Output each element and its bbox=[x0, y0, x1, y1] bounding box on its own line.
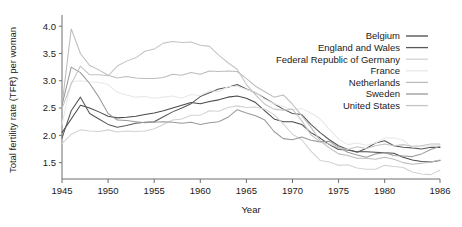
legend-item-label: Netherlands bbox=[349, 77, 400, 88]
x-tick-label: 1975 bbox=[328, 185, 349, 196]
x-tick-label: 1950 bbox=[98, 185, 119, 196]
x-axis-title: Year bbox=[241, 204, 260, 215]
legend-item-label: United States bbox=[343, 100, 400, 111]
y-tick-label: 1.5 bbox=[43, 157, 56, 168]
x-tick-label: 1965 bbox=[236, 185, 257, 196]
x-tick-label: 1986 bbox=[429, 185, 450, 196]
x-tick-label: 1970 bbox=[282, 185, 303, 196]
y-tick-label: 2.5 bbox=[43, 102, 56, 113]
x-tick-label: 1960 bbox=[190, 185, 211, 196]
x-tick-label: 1980 bbox=[374, 185, 395, 196]
legend-item-label: Sweden bbox=[366, 88, 400, 99]
legend-item-label: England and Wales bbox=[318, 42, 400, 53]
y-tick-label: 2.0 bbox=[43, 130, 56, 141]
fertility-rate-line-chart: 1.52.02.53.03.54.01945195019551960196519… bbox=[0, 0, 462, 227]
y-tick-label: 3.0 bbox=[43, 75, 56, 86]
legend-item-label: France bbox=[370, 65, 400, 76]
x-tick-label: 1945 bbox=[51, 185, 72, 196]
chart-legend: BelgiumEngland and WalesFederal Republic… bbox=[276, 30, 428, 111]
legend-item-label: Belgium bbox=[366, 30, 400, 41]
x-tick-label: 1955 bbox=[144, 185, 165, 196]
chart-figure: 1.52.02.53.03.54.01945195019551960196519… bbox=[0, 0, 462, 227]
y-tick-label: 4.0 bbox=[43, 21, 56, 32]
y-tick-label: 3.5 bbox=[43, 48, 56, 59]
legend-item-label: Federal Republic of Germany bbox=[276, 54, 400, 65]
series-line bbox=[62, 106, 440, 175]
y-axis-title: Total fertility rate (TFR) per woman bbox=[7, 27, 18, 173]
